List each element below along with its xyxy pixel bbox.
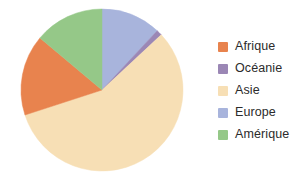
legend-swatch-icon — [218, 42, 228, 52]
chart-legend: AfriqueOcéanieAsieEuropeAmérique — [218, 40, 306, 141]
chart-figure: AfriqueOcéanieAsieEuropeAmérique — [0, 0, 306, 177]
legend-item-amrique[interactable]: Amérique — [218, 128, 306, 141]
legend-item-label: Afrique — [235, 40, 275, 53]
pie-chart-area — [0, 0, 200, 177]
legend-item-label: Océanie — [235, 62, 282, 75]
legend-item-label: Amérique — [235, 128, 289, 141]
legend-swatch-icon — [218, 108, 228, 118]
legend-swatch-icon — [218, 86, 228, 96]
legend-swatch-icon — [218, 64, 228, 74]
legend-item-asie[interactable]: Asie — [218, 84, 306, 97]
legend-item-label: Asie — [235, 84, 260, 97]
legend-swatch-icon — [218, 130, 228, 140]
legend-item-afrique[interactable]: Afrique — [218, 40, 306, 53]
legend-item-label: Europe — [235, 106, 276, 119]
legend-item-ocanie[interactable]: Océanie — [218, 62, 306, 75]
legend-item-europe[interactable]: Europe — [218, 106, 306, 119]
pie-chart-svg — [0, 0, 200, 177]
